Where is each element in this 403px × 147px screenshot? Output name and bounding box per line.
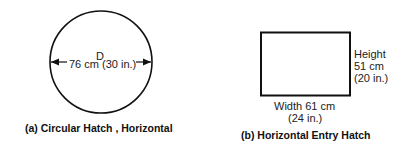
- height-in: (20 in.): [354, 72, 388, 84]
- caption-b: (b) Horizontal Entry Hatch: [241, 129, 371, 141]
- width-in: (24 in.): [288, 112, 322, 124]
- rectangular-hatch-shape: [261, 33, 350, 96]
- width-label: Width 61 cm: [274, 100, 335, 112]
- caption-a: (a) Circular Hatch , Horizontal: [25, 122, 173, 134]
- height-cm: 51 cm: [354, 60, 384, 72]
- diameter-value: 76 cm (30 in.): [69, 58, 136, 70]
- height-label: Height: [354, 48, 386, 60]
